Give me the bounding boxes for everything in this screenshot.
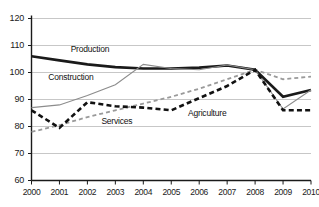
line-chart: 60708090100110120 2000200120022003200420…: [0, 0, 319, 207]
plot-area: [0, 0, 319, 207]
x-tick-label-2003: 2003: [100, 187, 130, 197]
x-tick-label-2001: 2001: [44, 187, 74, 197]
y-tick-label-60: 60: [0, 175, 24, 185]
x-tick-label-2000: 2000: [17, 187, 47, 197]
series-label-agriculture: Agriculture: [188, 108, 226, 118]
series-label-construction: Construction: [48, 72, 93, 82]
y-tick-label-110: 110: [0, 40, 24, 50]
x-tick-label-2002: 2002: [72, 187, 102, 197]
y-tick-label-100: 100: [0, 67, 24, 77]
x-tick-label-2007: 2007: [212, 187, 242, 197]
y-tick-label-80: 80: [0, 121, 24, 131]
y-tick-label-90: 90: [0, 94, 24, 104]
x-tick-label-2005: 2005: [156, 187, 186, 197]
series-label-services: Services: [101, 116, 132, 126]
y-tick-label-120: 120: [0, 13, 24, 23]
x-tick-label-2004: 2004: [128, 187, 158, 197]
y-tick-label-70: 70: [0, 148, 24, 158]
x-tick-label-2006: 2006: [184, 187, 214, 197]
series-label-production: Production: [71, 44, 110, 54]
x-tick-label-2010: 2010: [296, 187, 319, 197]
x-tick-label-2009: 2009: [268, 187, 298, 197]
x-tick-label-2008: 2008: [240, 187, 270, 197]
